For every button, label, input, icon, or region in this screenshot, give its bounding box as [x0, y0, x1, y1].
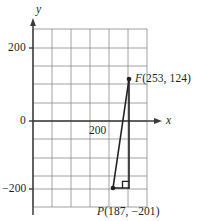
point-p-coords: (187, −201): [104, 205, 160, 217]
y-tick-label-200: 200: [8, 42, 26, 54]
y-axis-label: y: [36, 4, 41, 16]
point-p-marker: [111, 186, 116, 191]
coordinate-plane-figure: y x 200 0 −200 F(253, 124) P(187, −201) …: [0, 0, 200, 221]
segment-length-label: 200: [89, 125, 106, 137]
point-f-label: F(253, 124): [135, 73, 191, 85]
triangle-outline: [33, 79, 129, 188]
grid-vertical-lines: [33, 29, 147, 207]
y-tick-label-0: 0: [20, 115, 26, 127]
x-axis-label: x: [166, 115, 171, 127]
y-tick-label-minus-200: −200: [2, 183, 27, 195]
figure-canvas: [0, 0, 200, 221]
point-f-marker: [127, 77, 132, 82]
point-f-coords: (253, 124): [142, 72, 191, 84]
point-p-label: P(187, −201): [97, 206, 160, 218]
